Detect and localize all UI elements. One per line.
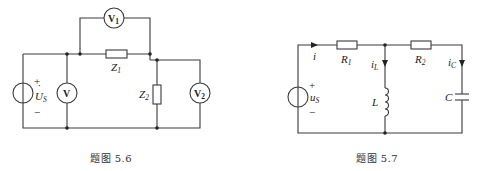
bottom-wire xyxy=(23,103,157,128)
top-wire xyxy=(298,45,462,94)
bottom-wire xyxy=(298,100,462,133)
r1-resistor xyxy=(337,41,357,49)
junction-dot xyxy=(78,52,82,56)
circuit-5-7: i R1 R2 iL iC L C + uS − xyxy=(288,41,469,135)
source-plus: + xyxy=(309,79,315,91)
r2-resistor xyxy=(411,41,431,49)
current-il-label: iL xyxy=(371,58,378,72)
junction-dot xyxy=(155,58,159,62)
source-minus: − xyxy=(309,106,315,118)
circuit-diagrams: + US · − V V1 V2 Z1 Z2 xyxy=(0,0,482,171)
junction-dot xyxy=(383,43,387,47)
junction-dot xyxy=(65,52,69,56)
source-label: uS xyxy=(310,91,320,105)
r1-label: R1 xyxy=(340,53,351,67)
z2-resistor xyxy=(153,85,161,104)
z1-resistor xyxy=(106,50,127,58)
junction-dot xyxy=(155,126,159,130)
source-minus: − xyxy=(34,106,40,118)
current-i-arrow-icon xyxy=(311,42,318,48)
source-label: US xyxy=(35,90,47,104)
junction-dot xyxy=(383,131,387,135)
caption-5-6: 题图 5.6 xyxy=(90,150,132,165)
z2-label: Z2 xyxy=(139,88,149,102)
source-phasor-dot: · xyxy=(38,79,42,91)
r2-label: R2 xyxy=(414,53,426,67)
junction-dot xyxy=(148,52,152,56)
current-il-arrow-icon xyxy=(382,60,388,67)
current-ic-arrow-icon xyxy=(459,60,465,67)
capacitor-label: C xyxy=(445,91,453,103)
top-wire xyxy=(23,54,150,60)
current-i-label: i xyxy=(313,50,316,62)
junction-dot xyxy=(65,126,69,130)
inductor-label: L xyxy=(371,96,378,108)
z1-label: Z1 xyxy=(111,61,121,75)
voltmeter-v-label: V xyxy=(63,88,71,99)
current-ic-label: iC xyxy=(448,56,457,70)
caption-5-7: 题图 5.7 xyxy=(356,150,398,165)
inductor-coil-icon xyxy=(385,88,389,116)
circuit-5-6: + US · − V V1 V2 Z1 Z2 xyxy=(13,8,210,130)
